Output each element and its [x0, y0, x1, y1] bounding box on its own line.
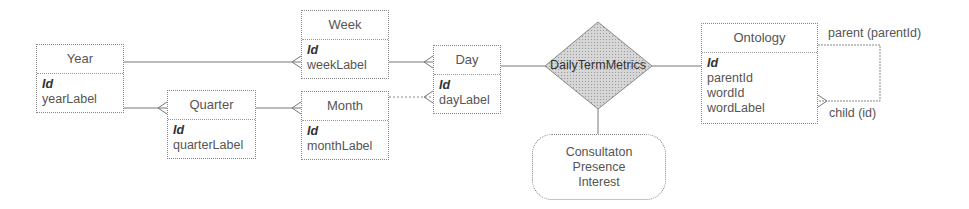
primary-key: Id — [42, 77, 118, 92]
parent-role-label: parent (parentId) — [828, 26, 921, 40]
field: wordLabel — [707, 101, 812, 116]
field: monthLabel — [307, 139, 383, 154]
entity-quarter[interactable]: Quarter Id quarterLabel — [167, 90, 256, 159]
entity-month[interactable]: Month Id monthLabel — [301, 91, 389, 160]
entity-title: Month — [302, 92, 388, 121]
primary-key: Id — [439, 78, 495, 93]
entity-title: Quarter — [168, 91, 255, 120]
field: parentId — [707, 71, 812, 86]
field: dayLabel — [439, 93, 495, 108]
measure: Presence — [533, 160, 665, 175]
primary-key: Id — [307, 43, 383, 58]
entity-title: Ontology — [702, 24, 817, 53]
entity-title: Day — [434, 46, 500, 75]
entity-year[interactable]: Year Id yearLabel — [36, 44, 124, 113]
field: wordId — [707, 86, 812, 101]
measure: Consultaton — [533, 145, 665, 160]
entity-week[interactable]: Week Id weekLabel — [301, 10, 389, 79]
field: quarterLabel — [173, 138, 250, 153]
entity-title: Week — [302, 11, 388, 40]
entity-title: Year — [37, 45, 123, 74]
primary-key: Id — [307, 124, 383, 139]
entity-day[interactable]: Day Id dayLabel — [433, 45, 501, 114]
primary-key: Id — [707, 56, 812, 71]
relationship-label: DailyTermMetrics — [543, 58, 653, 72]
measure: Interest — [533, 175, 665, 190]
primary-key: Id — [173, 123, 250, 138]
child-role-label: child (id) — [829, 106, 876, 120]
measures-box[interactable]: Consultaton Presence Interest — [532, 134, 666, 200]
entity-ontology[interactable]: Ontology Id parentId wordId wordLabel — [701, 23, 818, 124]
field: yearLabel — [42, 92, 118, 107]
field: weekLabel — [307, 58, 383, 73]
